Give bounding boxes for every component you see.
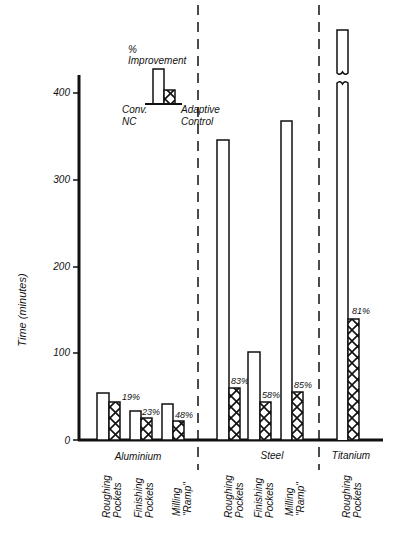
cat-al-mill-1: Milling [171,487,182,516]
bar-al-mill-adaptive [173,421,184,440]
cat-st-rough-2: Pockets [234,482,245,518]
pct-st-finish: 58% [262,390,280,400]
cat-al-rough-2: Pockets [112,482,123,518]
cat-st-mill-2: "Ramp" [295,482,306,516]
legend-adaptive-swatch [164,90,175,104]
y-axis: 400 300 200 100 0 Time (minutes) [16,75,79,446]
bar-al-finish-conv [130,411,141,440]
cat-ti-rough-2: Pockets [352,482,363,518]
cat-al-rough-1: Roughing [101,475,112,518]
pct-al-rough: 19% [122,392,140,402]
bar-st-rough-adaptive [229,388,240,440]
legend-conv-nc-swatch [153,69,164,104]
y-tick-200: 200 [52,261,70,272]
group-label-steel: Steel [261,450,285,461]
bar-st-rough-conv [217,140,229,440]
group-titanium: 81% [337,30,370,440]
bar-al-mill-conv [162,404,173,440]
legend: % Improvement Conv. NC Adaptive Control [122,44,220,127]
cat-st-mill-1: Milling [284,487,295,516]
cat-st-finish-2: Pockets [264,482,275,518]
group-aluminium: 19% 23% 48% [97,392,193,440]
cat-st-finish-1: Finishing [253,478,264,518]
bar-ti-rough-adaptive [348,319,359,440]
cat-al-mill-2: "Ramp" [182,482,193,516]
pct-al-mill: 48% [175,410,193,420]
category-labels: Roughing Pockets Finishing Pockets Milli… [101,475,363,518]
group-label-titanium: Titanium [332,450,370,461]
bar-al-rough-adaptive [109,402,120,440]
pct-ti-rough: 81% [352,306,370,316]
legend-conv-label-2: NC [122,116,137,127]
legend-title-line2: Improvement [128,55,188,66]
y-tick-0: 0 [64,435,70,446]
bar-ti-rough-conv [337,82,348,440]
legend-conv-label-1: Conv. [122,104,147,115]
pct-al-finish: 23% [141,407,160,417]
cat-al-finish-1: Finishing [133,478,144,518]
cat-st-rough-1: Roughing [223,475,234,518]
bar-chart: 400 300 200 100 0 Time (minutes) % Impro… [0,0,403,544]
bar-st-mill-adaptive [292,392,303,440]
legend-title-line1: % [128,44,137,55]
cat-ti-rough-1: Roughing [341,475,352,518]
bar-al-finish-adaptive [141,418,152,440]
bar-al-rough-conv [97,393,109,440]
y-tick-400: 400 [53,87,70,98]
y-tick-300: 300 [53,174,70,185]
bar-st-finish-adaptive [260,402,271,440]
y-axis-label: Time (minutes) [16,273,28,347]
pct-st-rough: 83% [231,376,249,386]
bar-st-finish-conv [248,352,260,440]
y-tick-100: 100 [53,347,70,358]
bar-ti-rough-conv-top-break [337,30,348,74]
legend-adaptive-label-2: Control [181,116,214,127]
group-label-aluminium: Aluminium [114,451,162,462]
bar-st-mill-conv [281,121,292,440]
legend-adaptive-label-1: Adaptive [180,104,220,115]
group-steel: 83% 58% 85% [217,121,312,440]
cat-al-finish-2: Pockets [144,482,155,518]
pct-st-mill: 85% [294,380,312,390]
